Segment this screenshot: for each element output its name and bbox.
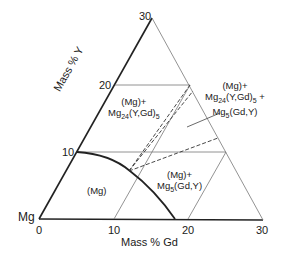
x-tick-30: 30	[256, 224, 268, 236]
y-tick-20: 20	[99, 79, 111, 91]
y-tick-30: 30	[139, 10, 151, 22]
corner-label-mg: Mg	[18, 210, 35, 224]
region-label-mg: (Mg)	[87, 185, 107, 196]
x-tick-10: 10	[108, 224, 120, 236]
region-label-three-phase: (Mg)+ Mg24(Y,Gd)5 + Mg5(Gd,Y)	[205, 80, 265, 121]
x-axis-label: Mass % Gd	[121, 237, 178, 248]
x-tick-20: 20	[182, 224, 194, 236]
x-tick-0: 0	[36, 224, 42, 236]
ternary-diagram-canvas	[0, 0, 283, 259]
region-label-mg-mg5: (Mg)+ Mg5(Gd,Y)	[157, 169, 202, 195]
bottom-edge-gd-axis	[39, 219, 263, 220]
region-label-mg-mg24: (Mg)+ Mg24(Y,Gd)5	[108, 96, 160, 122]
y-tick-10: 10	[62, 146, 74, 158]
